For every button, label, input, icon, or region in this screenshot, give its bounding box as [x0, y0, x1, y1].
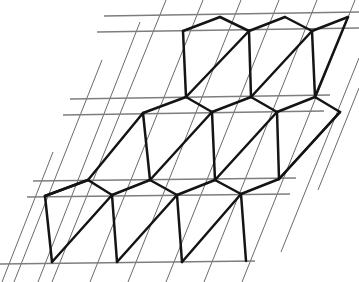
figure-canvas — [0, 0, 359, 282]
lattice-diagram — [0, 0, 359, 282]
